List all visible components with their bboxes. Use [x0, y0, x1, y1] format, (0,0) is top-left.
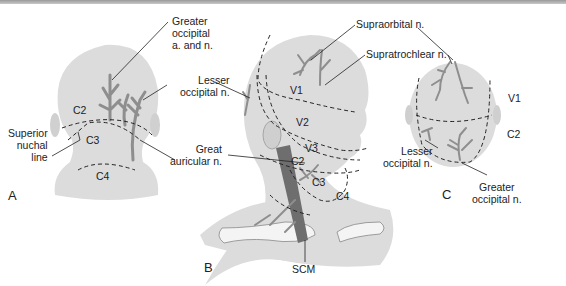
zone-c-v1: V1	[508, 92, 521, 104]
zone-b-c4: C4	[336, 190, 349, 202]
zone-a-c4: C4	[96, 170, 109, 182]
label-great-auricular: Great auricular n.	[170, 143, 222, 167]
zone-b-v3: V3	[305, 142, 318, 154]
label-supratrochlear: Supratrochlear n.	[366, 48, 447, 60]
zone-a-c3: C3	[86, 134, 99, 146]
zone-c-c2: C2	[507, 128, 520, 140]
zone-b-c3: C3	[312, 176, 325, 188]
label-greater-occipital-a: Greater occipital a. and n.	[172, 15, 213, 51]
label-scm: SCM	[292, 263, 315, 275]
label-supraorbital: Supraorbital n.	[356, 18, 424, 30]
zone-a-c2: C2	[73, 104, 86, 116]
label-superior-nuchal-line: Superior nuchal line	[8, 127, 48, 163]
dermatome-illustration	[0, 0, 566, 286]
panel-label-a: A	[8, 188, 17, 203]
zone-b-v1: V1	[290, 84, 303, 96]
zone-b-c2: C2	[291, 155, 304, 167]
zone-b-v2: V2	[296, 116, 309, 128]
panel-label-b: B	[204, 260, 213, 275]
label-lesser-occipital-b: Lesser occipital n.	[180, 74, 230, 98]
label-lesser-occipital-c: Lesser occipital n.	[383, 145, 433, 169]
panel-label-c: C	[442, 187, 451, 202]
panel-a-head	[50, 22, 175, 200]
label-greater-occipital-c: Greater occipital n.	[472, 181, 522, 205]
